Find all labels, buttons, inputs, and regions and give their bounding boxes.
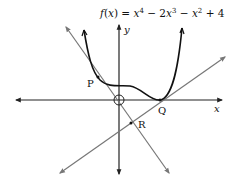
line-QR xyxy=(60,57,225,173)
label-y: y xyxy=(123,24,130,35)
label-Q: Q xyxy=(158,105,166,116)
diagram: P Q R x y f(x) = x4 − 2x3 − x2 + 4 xyxy=(0,0,240,185)
curve-f xyxy=(84,28,182,100)
function-graph: P Q R x y f(x) = x4 − 2x3 − x2 + 4 xyxy=(0,0,240,185)
label-x: x xyxy=(214,103,220,114)
point-R xyxy=(130,122,133,125)
equation-title: f(x) = x4 − 2x3 − x2 + 4 xyxy=(99,7,225,19)
point-P xyxy=(97,76,100,79)
point-Q xyxy=(159,99,162,102)
label-R: R xyxy=(138,119,146,130)
label-P: P xyxy=(87,78,94,89)
